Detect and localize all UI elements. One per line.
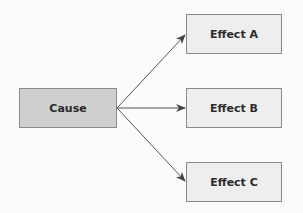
effect-c-node: Effect C xyxy=(186,162,282,202)
cause-node: Cause xyxy=(19,88,117,128)
arrow-to-effect-c xyxy=(117,108,185,181)
effect-c-label: Effect C xyxy=(210,176,258,189)
effect-a-label: Effect A xyxy=(210,28,258,41)
cause-label: Cause xyxy=(49,102,86,115)
arrow-to-effect-a xyxy=(117,35,185,108)
effect-b-label: Effect B xyxy=(210,102,258,115)
effect-a-node: Effect A xyxy=(186,14,282,54)
effect-b-node: Effect B xyxy=(186,88,282,128)
